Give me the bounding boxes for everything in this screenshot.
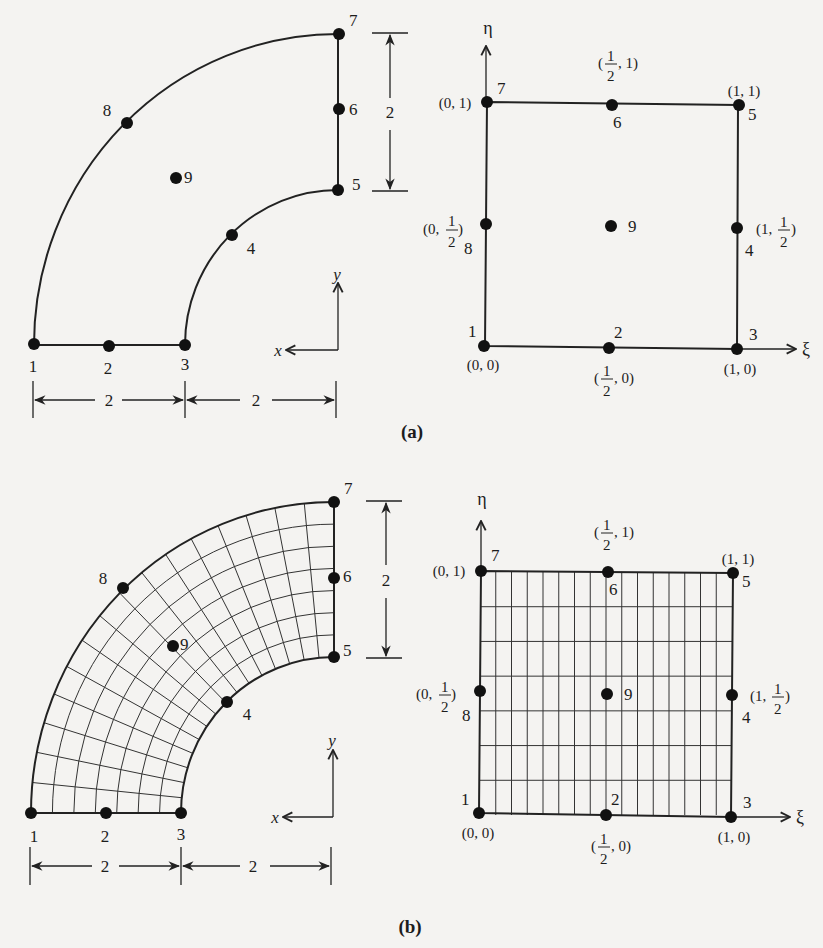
svg-text:1: 1 bbox=[603, 517, 611, 533]
node-5 bbox=[727, 567, 739, 579]
node-6 bbox=[602, 566, 614, 578]
node-label: 6 bbox=[343, 567, 352, 586]
coord-label: (1, 1) bbox=[722, 551, 755, 568]
figure: 1 2 3 4 5 6 7 8 9 y x 2 2 bbox=[0, 0, 823, 948]
node-3 bbox=[175, 807, 187, 819]
xy-axes: y x bbox=[273, 265, 341, 360]
svg-text:(: ( bbox=[594, 524, 599, 541]
node-1 bbox=[28, 338, 40, 350]
coord-label-node-8: (0, 1 2 ) bbox=[416, 679, 456, 715]
coord-label: (0, 1) bbox=[439, 95, 472, 112]
svg-text:2: 2 bbox=[774, 701, 782, 717]
xi-axis-label: ξ bbox=[796, 807, 804, 827]
node-7 bbox=[333, 28, 345, 40]
node-4 bbox=[221, 696, 233, 708]
node-3 bbox=[731, 343, 743, 355]
svg-text:2: 2 bbox=[607, 68, 615, 84]
node-label: 3 bbox=[181, 355, 190, 374]
panel-a-label: (a) bbox=[401, 421, 423, 443]
node-2 bbox=[100, 807, 112, 819]
node-label: 2 bbox=[104, 359, 113, 378]
dimension-label: 2 bbox=[249, 857, 258, 876]
node-label: 4 bbox=[742, 708, 751, 727]
coord-label-node-8: (0, 1 2 ) bbox=[423, 213, 463, 250]
nodes bbox=[28, 28, 345, 352]
svg-text:2: 2 bbox=[780, 234, 788, 250]
node-label: 6 bbox=[609, 580, 618, 599]
node-label: 4 bbox=[243, 705, 252, 724]
node-2 bbox=[103, 340, 115, 352]
node-labels: 1 2 3 4 5 6 7 8 9 bbox=[29, 11, 361, 378]
node-label: 3 bbox=[743, 793, 752, 812]
svg-text:(0,: (0, bbox=[416, 686, 432, 703]
node-label: 7 bbox=[497, 79, 506, 98]
coord-label: (1, 1) bbox=[728, 83, 761, 100]
svg-text:1: 1 bbox=[780, 214, 788, 230]
panel-a-physical-element: 1 2 3 4 5 6 7 8 9 y x 2 2 bbox=[28, 11, 408, 418]
node-label: 7 bbox=[491, 546, 500, 565]
svg-text:1: 1 bbox=[607, 48, 615, 64]
svg-text:, 1): , 1) bbox=[618, 55, 638, 72]
node-label: 6 bbox=[613, 113, 622, 132]
node-3 bbox=[725, 811, 737, 823]
node-8 bbox=[121, 117, 133, 129]
node-6 bbox=[606, 99, 618, 111]
svg-text:2: 2 bbox=[603, 537, 611, 553]
node-label: 5 bbox=[748, 105, 757, 124]
node-9 bbox=[170, 172, 182, 184]
node-label: 8 bbox=[99, 569, 108, 588]
node-label: 2 bbox=[101, 827, 110, 846]
node-5 bbox=[733, 99, 745, 111]
node-label: 5 bbox=[742, 572, 751, 591]
node-1 bbox=[25, 807, 37, 819]
svg-text:(0,: (0, bbox=[423, 221, 439, 238]
coord-label: (0, 0) bbox=[462, 825, 495, 842]
node-1 bbox=[473, 807, 485, 819]
node-label: 4 bbox=[745, 241, 754, 260]
svg-text:, 0): , 0) bbox=[614, 370, 634, 387]
eta-axis-label: η bbox=[477, 489, 486, 509]
coord-label-node-4: (1, 1 2 ) bbox=[756, 214, 796, 250]
node-5 bbox=[328, 651, 340, 663]
coord-label-node-6: ( 1 2 , 1) bbox=[594, 517, 634, 553]
node-label: 4 bbox=[247, 239, 256, 258]
svg-text:): ) bbox=[785, 688, 790, 705]
svg-text:1: 1 bbox=[441, 679, 449, 695]
xi-axis-label: ξ bbox=[802, 339, 810, 359]
panel-b-physical-element: 1 2 3 4 5 6 7 8 9 y x 2 2 2 bbox=[25, 479, 402, 885]
node-label: 9 bbox=[180, 635, 189, 654]
svg-text:, 0): , 0) bbox=[611, 838, 631, 855]
panel-b-label: (b) bbox=[398, 916, 421, 938]
dimension-label: 2 bbox=[105, 391, 114, 410]
svg-text:(1,: (1, bbox=[750, 688, 766, 705]
dimension-label: 2 bbox=[101, 857, 110, 876]
panel-b-parent-element: η ξ 1 2 3 4 5 6 7 8 9 (0, 0) (1, 0) (1, … bbox=[416, 489, 804, 867]
node-label: 1 bbox=[30, 827, 39, 846]
svg-text:2: 2 bbox=[603, 383, 611, 399]
y-axis-label: y bbox=[331, 265, 341, 284]
node-5 bbox=[332, 184, 344, 196]
coord-label: (0, 0) bbox=[467, 357, 500, 374]
node-label: 8 bbox=[464, 239, 473, 258]
curved-mesh bbox=[32, 503, 334, 813]
svg-text:(1,: (1, bbox=[756, 221, 772, 238]
node-9 bbox=[601, 688, 613, 700]
dimension-lines: 2 2 2 bbox=[33, 33, 408, 418]
node-label: 6 bbox=[349, 100, 358, 119]
node-4 bbox=[726, 689, 738, 701]
dimension-label: 2 bbox=[386, 103, 395, 122]
coord-label: (1, 0) bbox=[724, 361, 757, 378]
node-label: 3 bbox=[749, 325, 758, 344]
node-1 bbox=[478, 340, 490, 352]
svg-text:): ) bbox=[451, 686, 456, 703]
svg-text:2: 2 bbox=[441, 699, 449, 715]
node-9 bbox=[605, 220, 617, 232]
coord-label-node-6: ( 1 2 , 1) bbox=[598, 48, 638, 84]
node-7 bbox=[328, 496, 340, 508]
node-label: 1 bbox=[468, 322, 477, 341]
xy-axes: y x bbox=[270, 731, 336, 827]
node-label: 7 bbox=[344, 479, 353, 498]
node-8 bbox=[117, 582, 129, 594]
node-label: 8 bbox=[103, 101, 112, 120]
svg-text:2: 2 bbox=[600, 851, 608, 867]
